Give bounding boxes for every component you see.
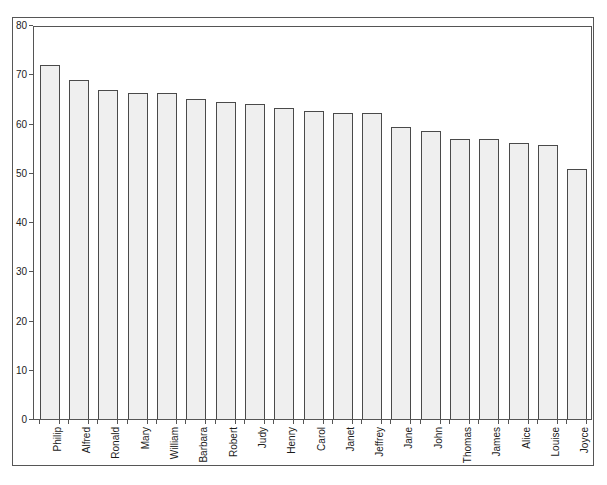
x-axis-tick-label: Ronald bbox=[111, 427, 121, 459]
bar[interactable] bbox=[128, 93, 148, 419]
x-axis-tick-mark bbox=[478, 420, 479, 424]
x-axis-tick-mark bbox=[352, 420, 353, 424]
bar[interactable] bbox=[157, 93, 177, 419]
y-axis-tick: 10 bbox=[0, 365, 33, 377]
x-axis-tick-label: Janet bbox=[346, 427, 356, 451]
bar[interactable] bbox=[538, 145, 558, 419]
x-axis: PhilipAlfredRonaldMaryWilliamBarbaraRobe… bbox=[33, 420, 592, 466]
x-axis-tick-mark bbox=[332, 420, 333, 424]
x-axis-tick-mark bbox=[88, 420, 89, 424]
x-axis-tick-mark bbox=[59, 420, 60, 424]
y-axis-tick-label: 20 bbox=[16, 316, 27, 328]
x-axis-tick-label: Mary bbox=[141, 427, 151, 449]
y-axis-tick: 40 bbox=[0, 217, 33, 229]
bar[interactable] bbox=[274, 108, 294, 419]
y-axis-tick-label: 30 bbox=[16, 266, 27, 278]
bar[interactable] bbox=[40, 65, 60, 419]
x-axis-tick-mark bbox=[127, 420, 128, 424]
bar[interactable] bbox=[450, 139, 470, 419]
x-axis-tick-mark bbox=[410, 420, 411, 424]
bar[interactable] bbox=[479, 139, 499, 419]
x-axis-tick-label: William bbox=[170, 427, 180, 459]
bar[interactable] bbox=[245, 104, 265, 419]
x-axis-tick-label: Jane bbox=[404, 427, 414, 449]
x-axis-tick-label: Alice bbox=[522, 427, 532, 449]
y-axis-tick-label: 10 bbox=[16, 365, 27, 377]
x-axis-tick-label: John bbox=[434, 427, 444, 449]
y-axis-tick-label: 80 bbox=[16, 20, 27, 32]
x-axis-tick-mark bbox=[361, 420, 362, 424]
x-axis-tick-mark bbox=[205, 420, 206, 424]
x-axis-tick-label: Louise bbox=[551, 427, 561, 456]
x-axis-tick-mark bbox=[235, 420, 236, 424]
x-axis-tick-mark bbox=[215, 420, 216, 424]
x-axis-tick-mark bbox=[323, 420, 324, 424]
x-axis-tick-mark bbox=[469, 420, 470, 424]
x-axis-tick-label: Robert bbox=[229, 427, 239, 457]
y-axis-tick: 80 bbox=[0, 20, 33, 32]
x-axis-tick-mark bbox=[537, 420, 538, 424]
bar[interactable] bbox=[567, 169, 587, 419]
x-axis-tick-mark bbox=[449, 420, 450, 424]
bar[interactable] bbox=[98, 90, 118, 419]
bars-layer bbox=[34, 27, 591, 419]
x-axis-tick-mark bbox=[390, 420, 391, 424]
y-axis-tick: 70 bbox=[0, 69, 33, 81]
y-axis-tick: 60 bbox=[0, 119, 33, 131]
bar[interactable] bbox=[69, 80, 89, 419]
x-axis-tick-mark bbox=[498, 420, 499, 424]
bar[interactable] bbox=[391, 127, 411, 419]
y-axis-tick: 30 bbox=[0, 266, 33, 278]
x-axis-tick-mark bbox=[117, 420, 118, 424]
x-axis-tick-mark bbox=[185, 420, 186, 424]
bar[interactable] bbox=[421, 131, 441, 419]
y-axis-tick: 0 bbox=[0, 414, 33, 426]
y-axis-tick-label: 60 bbox=[16, 119, 27, 131]
x-axis-tick-mark bbox=[303, 420, 304, 424]
bar[interactable] bbox=[186, 99, 206, 419]
y-axis-tick: 20 bbox=[0, 316, 33, 328]
x-axis-tick-mark bbox=[381, 420, 382, 424]
y-axis-tick-label: 50 bbox=[16, 168, 27, 180]
y-axis-tick-label: 70 bbox=[16, 69, 27, 81]
bar-chart: 01020304050607080 PhilipAlfredRonaldMary… bbox=[0, 0, 607, 485]
x-axis-tick-mark bbox=[508, 420, 509, 424]
x-axis-tick-label: Jeffrey bbox=[375, 427, 385, 457]
x-axis-tick-mark bbox=[244, 420, 245, 424]
bar[interactable] bbox=[216, 102, 236, 419]
x-axis-tick-mark bbox=[440, 420, 441, 424]
x-axis-tick-label: Thomas bbox=[463, 427, 473, 463]
bar[interactable] bbox=[333, 113, 353, 419]
y-axis-tick-label: 40 bbox=[16, 217, 27, 229]
x-axis-tick-label: Joyce bbox=[580, 427, 590, 453]
x-axis-tick-mark bbox=[156, 420, 157, 424]
x-axis-tick-mark bbox=[68, 420, 69, 424]
y-axis-tick-label: 0 bbox=[21, 414, 27, 426]
y-axis-tick: 50 bbox=[0, 168, 33, 180]
plot-area bbox=[33, 26, 592, 420]
x-axis-tick-mark bbox=[264, 420, 265, 424]
x-axis-tick-mark bbox=[420, 420, 421, 424]
bar[interactable] bbox=[362, 113, 382, 419]
x-axis-tick-mark bbox=[566, 420, 567, 424]
bar[interactable] bbox=[304, 111, 324, 419]
x-axis-tick-label: Judy bbox=[258, 427, 268, 448]
x-axis-tick-mark bbox=[528, 420, 529, 424]
x-axis-tick-mark bbox=[557, 420, 558, 424]
x-axis-tick-label: James bbox=[492, 427, 502, 456]
x-axis-tick-label: Alfred bbox=[82, 427, 92, 453]
x-axis-tick-label: Philip bbox=[53, 427, 63, 451]
x-axis-tick-label: Henry bbox=[287, 427, 297, 454]
x-axis-tick-label: Carol bbox=[317, 427, 327, 451]
y-axis: 01020304050607080 bbox=[0, 0, 33, 485]
x-axis-tick-mark bbox=[147, 420, 148, 424]
x-axis-tick-label: Barbara bbox=[199, 427, 209, 463]
x-axis-tick-mark bbox=[586, 420, 587, 424]
x-axis-tick-mark bbox=[39, 420, 40, 424]
x-axis-tick-mark bbox=[293, 420, 294, 424]
x-axis-tick-mark bbox=[97, 420, 98, 424]
bar[interactable] bbox=[509, 143, 529, 419]
x-axis-tick-mark bbox=[273, 420, 274, 424]
x-axis-tick-mark bbox=[176, 420, 177, 424]
